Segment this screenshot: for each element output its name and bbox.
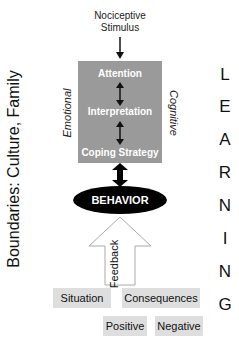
- thick-bidirectional-arrow-icon: [111, 163, 129, 187]
- negative-box: Negative: [155, 316, 203, 336]
- positive-box: Positive: [103, 316, 147, 336]
- stimulus-line2: Stimulus: [80, 22, 160, 34]
- nociceptive-stimulus: Nociceptive Stimulus: [80, 10, 160, 34]
- bidirectional-arrow-icon: [113, 121, 127, 145]
- behavior-ellipse: BEHAVIOR: [73, 186, 167, 214]
- emotional-label: Emotional: [61, 83, 73, 143]
- coping-strategy-label: Coping Strategy: [78, 147, 162, 158]
- stimulus-line1: Nociceptive: [80, 10, 160, 22]
- down-arrow-icon: [112, 36, 128, 60]
- learning-letter: N: [215, 196, 235, 216]
- feedback-arrow-icon: [87, 216, 153, 286]
- learning-letter: I: [215, 229, 235, 249]
- attention-label: Attention: [78, 68, 162, 79]
- learning-letter: E: [215, 97, 235, 117]
- interpretation-label: Interpretation: [78, 106, 162, 117]
- consequences-box: Consequences: [122, 288, 200, 308]
- learning-letter: G: [215, 295, 235, 315]
- cognitive-label: Cognitive: [168, 83, 180, 143]
- bidirectional-arrow-icon: [113, 82, 127, 106]
- learning-letter: N: [215, 262, 235, 282]
- learning-letter: L: [215, 65, 235, 85]
- learning-letter: A: [215, 130, 235, 150]
- cognitive-process-box: Attention Interpretation Coping Strategy: [78, 61, 162, 163]
- situation-box: Situation: [53, 288, 111, 308]
- learning-letter: R: [215, 163, 235, 183]
- boundaries-label: Boundaries: Culture, Family: [5, 49, 23, 289]
